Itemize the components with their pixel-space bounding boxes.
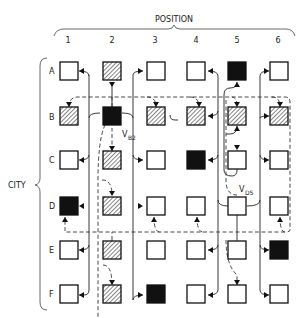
column-header: 2 [109,36,114,45]
neuron-A4 [187,62,205,80]
row-headers: A B C D E F [49,67,55,299]
row-header: D [49,202,55,211]
column-header: 3 [152,36,157,45]
neuron-B4 [187,107,205,125]
neuron-E4 [187,241,205,259]
city-brace [35,58,47,310]
neuron-D4 [187,197,205,215]
neuron-C4 [187,151,205,169]
neuron-B2 [103,107,121,125]
vD5-sub: D5 [245,189,254,196]
neuron-D2 [103,197,121,215]
neuron-F2 [103,285,121,303]
position-brace [54,25,295,36]
neuron-B3 [147,107,165,125]
neuron-F4 [187,285,205,303]
row-header: B [49,113,55,122]
city-axis-label: CITY [8,181,26,190]
dashed-connections [65,97,290,318]
neuron-A5 [228,62,246,80]
neuron-A6 [270,62,288,80]
neuron-A1 [60,62,78,80]
neuron-C3 [147,151,165,169]
neuron-C2 [103,151,121,169]
neuron-A3 [147,62,165,80]
column-header: 5 [234,36,239,45]
row-header: C [49,156,55,165]
column-header: 6 [275,36,280,45]
neuron-B5 [228,107,246,125]
neuron-B1 [60,107,78,125]
row-header: A [49,67,55,76]
arrowheads [62,68,283,298]
neuron-F5 [228,285,246,303]
node-label-vB2: V B2 [122,130,136,141]
row-header: F [49,290,54,299]
neuron-F6 [270,285,288,303]
neuron-F3 [147,285,165,303]
neuron-E3 [147,241,165,259]
neuron-E2 [103,241,121,259]
neuron-D6 [270,197,288,215]
neuron-D5 [228,197,246,215]
neuron-E6 [270,241,288,259]
column-headers: 1 2 3 4 5 6 [65,36,280,45]
row-header: E [49,246,54,255]
neuron-C5 [228,151,246,169]
node-label-vD5: V D5 [239,185,254,196]
neuron-C1 [60,151,78,169]
vB2-sub: B2 [128,134,136,141]
neuron-A2 [103,62,121,80]
neuron-B6 [270,107,288,125]
neuron-grid [60,62,288,303]
hopfield-network-diagram: POSITION 1 2 3 4 5 6 CITY A B C D E F [0,0,305,318]
neuron-E5 [228,241,246,259]
neuron-C6 [270,151,288,169]
column-header: 4 [193,36,198,45]
neuron-E1 [60,241,78,259]
column-header: 1 [65,36,70,45]
neuron-D3 [147,197,165,215]
neuron-D1 [60,197,78,215]
neuron-F1 [60,285,78,303]
position-axis-label: POSITION [155,15,193,24]
